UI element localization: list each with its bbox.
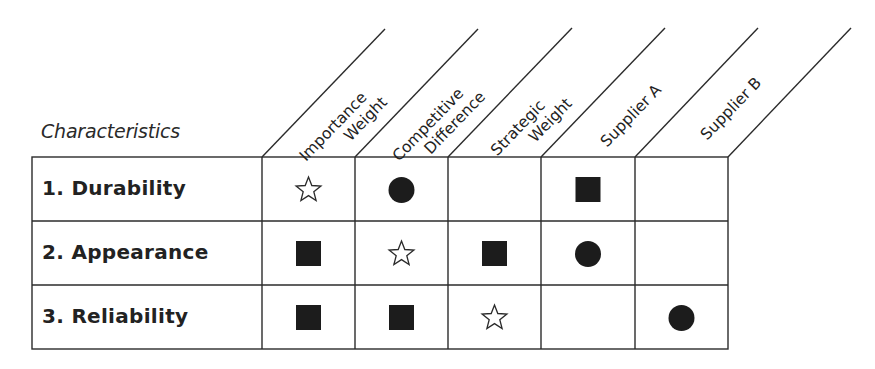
filled-square-icon — [296, 241, 321, 266]
star-outline-icon — [389, 241, 414, 265]
filled-circle-icon — [669, 305, 695, 331]
filled-square-icon — [482, 241, 507, 266]
star-outline-icon — [482, 305, 507, 329]
filled-square-icon — [389, 305, 414, 330]
row-label-reliability: 3. Reliability — [42, 304, 188, 328]
quality-matrix-diagram: Characteristics 1. Durability 2. Appeara… — [0, 0, 875, 369]
characteristics-header: Characteristics — [41, 120, 180, 142]
star-outline-icon — [296, 177, 321, 201]
filled-square-icon — [576, 177, 601, 202]
filled-circle-icon — [389, 177, 415, 203]
filled-square-icon — [296, 305, 321, 330]
row-label-appearance: 2. Appearance — [42, 240, 209, 264]
row-label-durability: 1. Durability — [42, 176, 186, 200]
filled-circle-icon — [575, 241, 601, 267]
